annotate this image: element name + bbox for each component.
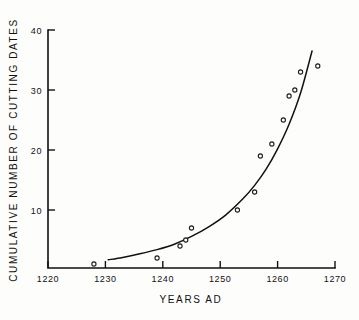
y-axis-label: CUMULATIVE NUMBER OF CUTTING DATES [8, 18, 19, 281]
axes [48, 30, 335, 268]
y-tick-label-10: 10 [31, 206, 42, 216]
figure-container: 122012301240125012601270 10203040 YEARS … [0, 0, 359, 320]
x-axis-tick-labels: 122012301240125012601270 [37, 274, 346, 284]
x-tick-label-1260: 1260 [266, 274, 288, 284]
data-point [184, 238, 188, 242]
fitted-curve [108, 51, 312, 260]
y-tick-label-20: 20 [31, 146, 42, 156]
data-point [189, 226, 193, 230]
data-point [298, 70, 302, 74]
data-point [178, 244, 182, 248]
y-axis-ticks [48, 30, 55, 210]
x-axis-ticks [48, 261, 335, 268]
data-point [287, 94, 291, 98]
data-point [293, 88, 297, 92]
data-point [270, 142, 274, 146]
data-points [92, 64, 320, 266]
x-tick-label-1240: 1240 [152, 274, 174, 284]
data-point [258, 154, 262, 158]
y-tick-label-30: 30 [31, 86, 42, 96]
x-tick-label-1230: 1230 [94, 274, 116, 284]
x-tick-label-1250: 1250 [209, 274, 231, 284]
y-tick-label-40: 40 [31, 26, 42, 36]
data-point [235, 208, 239, 212]
data-point [316, 64, 320, 68]
data-point [92, 262, 96, 266]
y-axis-tick-labels: 10203040 [31, 26, 42, 216]
data-point [253, 190, 257, 194]
x-axis-label: YEARS AD [160, 294, 223, 305]
data-point [281, 118, 285, 122]
x-tick-label-1270: 1270 [324, 274, 346, 284]
scatter-plot: 122012301240125012601270 10203040 YEARS … [0, 0, 359, 320]
axis-lines [48, 30, 335, 268]
x-tick-label-1220: 1220 [37, 274, 59, 284]
data-point [155, 256, 159, 260]
